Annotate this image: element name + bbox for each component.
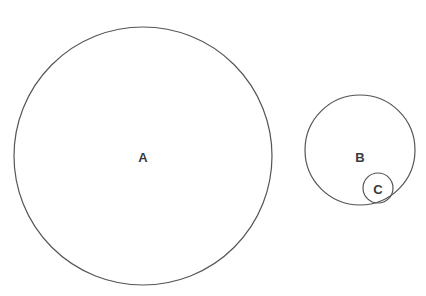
circle-b-group: B	[305, 95, 415, 205]
circle-diagram: A B C	[0, 0, 426, 296]
circle-c-label: C	[373, 182, 383, 197]
circle-a-label: A	[138, 150, 148, 165]
circle-b-label: B	[355, 150, 364, 165]
circle-a-group: A	[14, 27, 272, 285]
circle-c-group: C	[363, 173, 393, 203]
